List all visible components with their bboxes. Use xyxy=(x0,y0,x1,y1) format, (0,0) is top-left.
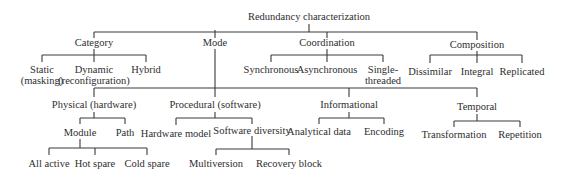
node-label: Category xyxy=(75,37,114,48)
node-category: Category xyxy=(75,37,114,48)
node-hardware-model: Hardware model xyxy=(141,128,211,139)
node-transformation: Transformation xyxy=(422,129,487,140)
node-label: Physical (hardware) xyxy=(52,99,136,110)
node-label: Cold spare xyxy=(124,158,169,169)
node-label: Composition xyxy=(450,39,504,50)
node-label: Replicated xyxy=(500,66,545,77)
node-label: Transformation xyxy=(422,129,487,140)
node-procedural: Procedural (software) xyxy=(169,99,260,110)
node-static: Static (masking) xyxy=(21,64,64,86)
node-label: Hot spare xyxy=(75,158,116,169)
node-module: Module xyxy=(64,127,97,138)
node-label: Analytical data xyxy=(287,126,351,137)
node-label: Informational xyxy=(320,99,378,110)
node-label: Temporal xyxy=(457,101,497,112)
node-label-line2: (reconfiguration) xyxy=(58,75,130,86)
node-hybrid: Hybrid xyxy=(131,64,161,75)
node-integral: Integral xyxy=(461,66,494,77)
node-label: Recovery block xyxy=(256,158,322,169)
node-replicated: Replicated xyxy=(500,66,545,77)
redundancy-tree-diagram: Redundancy characterization Category Mod… xyxy=(0,0,562,180)
node-coordination: Coordination xyxy=(299,37,354,48)
node-asynchronous: Asynchronous xyxy=(297,64,358,75)
node-software-diversity: Software diversity xyxy=(213,125,290,136)
node-label: Dissimilar xyxy=(408,66,452,77)
node-label: Mode xyxy=(203,37,228,48)
root-node: Redundancy characterization xyxy=(248,11,370,22)
node-label: Hybrid xyxy=(131,64,161,75)
node-label-line1: Static xyxy=(21,64,64,75)
root-label: Redundancy characterization xyxy=(248,11,370,22)
node-label: Synchronous xyxy=(244,64,299,75)
node-synchronous: Synchronous xyxy=(244,64,299,75)
node-single-threaded: Single- threaded xyxy=(365,64,401,86)
node-cold-spare: Cold spare xyxy=(124,158,169,169)
node-label: Multiversion xyxy=(189,158,243,169)
node-informational: Informational xyxy=(320,99,378,110)
node-all-active: All active xyxy=(28,158,69,169)
node-label: Software diversity xyxy=(213,125,290,136)
node-label: All active xyxy=(28,158,69,169)
node-label: Repetition xyxy=(498,129,542,140)
node-label: Coordination xyxy=(299,37,354,48)
node-label: Module xyxy=(64,127,97,138)
node-temporal: Temporal xyxy=(457,101,497,112)
node-path: Path xyxy=(116,127,135,138)
node-label-line2: (masking) xyxy=(21,75,64,86)
node-dynamic: Dynamic (reconfiguration) xyxy=(58,64,130,86)
node-recovery-block: Recovery block xyxy=(256,158,322,169)
node-hot-spare: Hot spare xyxy=(75,158,116,169)
node-composition: Composition xyxy=(450,39,504,50)
node-label: Integral xyxy=(461,66,494,77)
node-physical: Physical (hardware) xyxy=(52,99,136,110)
node-label: Hardware model xyxy=(141,128,211,139)
node-label: Procedural (software) xyxy=(169,99,260,110)
node-label-line2: threaded xyxy=(365,75,401,86)
node-dissimilar: Dissimilar xyxy=(408,66,452,77)
node-label: Asynchronous xyxy=(297,64,358,75)
tree-connectors xyxy=(0,0,562,180)
node-analytical-data: Analytical data xyxy=(287,126,351,137)
node-label: Encoding xyxy=(364,126,404,137)
node-label-line1: Single- xyxy=(365,64,401,75)
node-mode: Mode xyxy=(203,37,228,48)
node-repetition: Repetition xyxy=(498,129,542,140)
node-label-line1: Dynamic xyxy=(58,64,130,75)
node-encoding: Encoding xyxy=(364,126,404,137)
node-label: Path xyxy=(116,127,135,138)
node-multiversion: Multiversion xyxy=(189,158,243,169)
